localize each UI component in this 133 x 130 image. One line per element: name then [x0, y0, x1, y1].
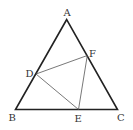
point-label-f: F — [89, 48, 96, 59]
outer-triangle-abc — [16, 20, 118, 110]
point-label-e: E — [75, 113, 82, 124]
triangle-diagram: A B C D E F — [0, 0, 133, 130]
vertex-label-b: B — [9, 112, 16, 123]
vertex-label-a: A — [63, 7, 72, 18]
vertex-label-c: C — [117, 112, 125, 123]
diagram-canvas: A B C D E F — [0, 0, 133, 130]
inner-triangle-def — [36, 56, 87, 110]
point-label-d: D — [26, 68, 34, 79]
